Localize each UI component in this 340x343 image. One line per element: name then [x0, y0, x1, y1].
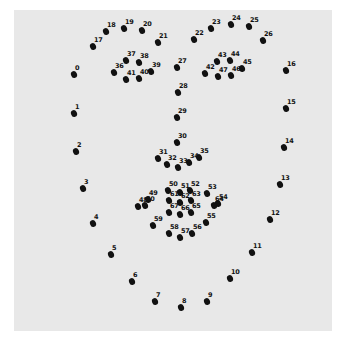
landmark-label: 4 [94, 214, 98, 221]
landmark-label: 9 [208, 292, 212, 299]
landmark-label: 10 [231, 269, 239, 276]
landmark-label: 23 [212, 19, 220, 26]
landmark-label: 61 [170, 191, 178, 198]
landmark-label: 46 [232, 66, 240, 73]
landmark-label: 44 [231, 51, 239, 58]
landmark-panel [14, 10, 332, 331]
landmark-label: 1 [75, 104, 79, 111]
landmark-label: 53 [208, 184, 216, 191]
landmark-label: 65 [192, 203, 200, 210]
landmark-label: 66 [181, 205, 189, 212]
landmark-label: 7 [156, 292, 160, 299]
landmark-label: 28 [179, 83, 187, 90]
landmark-label: 31 [159, 149, 167, 156]
landmark-label: 57 [181, 228, 189, 235]
landmark-label: 32 [168, 155, 176, 162]
landmark-label: 14 [285, 138, 293, 145]
landmark-label: 39 [152, 62, 160, 69]
landmark-label: 67 [170, 203, 178, 210]
landmark-label: 22 [195, 30, 203, 37]
landmark-label: 24 [232, 15, 240, 22]
landmark-label: 59 [154, 216, 162, 223]
landmark-label: 0 [75, 65, 79, 72]
landmark-label: 25 [250, 17, 258, 24]
landmark-label: 38 [140, 53, 148, 60]
landmark-label: 52 [191, 181, 199, 188]
landmark-label: 3 [84, 179, 88, 186]
landmark-label: 41 [127, 70, 135, 77]
landmark-label: 5 [112, 245, 116, 252]
landmark-label: 8 [182, 298, 186, 305]
landmark-label: 58 [170, 224, 178, 231]
landmark-label: 55 [207, 213, 215, 220]
landmark-label: 56 [193, 224, 201, 231]
landmark-label: 45 [243, 59, 251, 66]
landmark-label: 36 [115, 63, 123, 70]
landmark-label: 37 [127, 51, 135, 58]
landmark-label: 11 [253, 243, 261, 250]
landmark-label: 63 [192, 191, 200, 198]
landmark-label: 35 [200, 148, 208, 155]
landmark-label: 47 [219, 67, 227, 74]
landmark-label: 40 [140, 69, 148, 76]
landmark-label: 12 [271, 210, 279, 217]
landmark-label: 30 [178, 133, 186, 140]
landmark-label: 60 [146, 196, 154, 203]
landmark-label: 20 [143, 21, 151, 28]
landmark-label: 42 [206, 64, 214, 71]
landmark-label: 29 [178, 108, 186, 115]
landmark-label: 6 [133, 272, 137, 279]
landmark-label: 50 [169, 181, 177, 188]
landmark-label: 27 [178, 58, 186, 65]
landmark-label: 19 [125, 19, 133, 26]
landmark-label: 43 [218, 52, 226, 59]
landmark-label: 15 [287, 99, 295, 106]
landmark-label: 13 [281, 175, 289, 182]
landmark-label: 17 [94, 37, 102, 44]
landmark-label: 21 [159, 33, 167, 40]
landmark-label: 18 [107, 22, 115, 29]
landmark-label: 64 [215, 196, 223, 203]
landmark-label: 26 [264, 31, 272, 38]
landmark-label: 16 [287, 61, 295, 68]
landmark-label: 2 [77, 142, 81, 149]
